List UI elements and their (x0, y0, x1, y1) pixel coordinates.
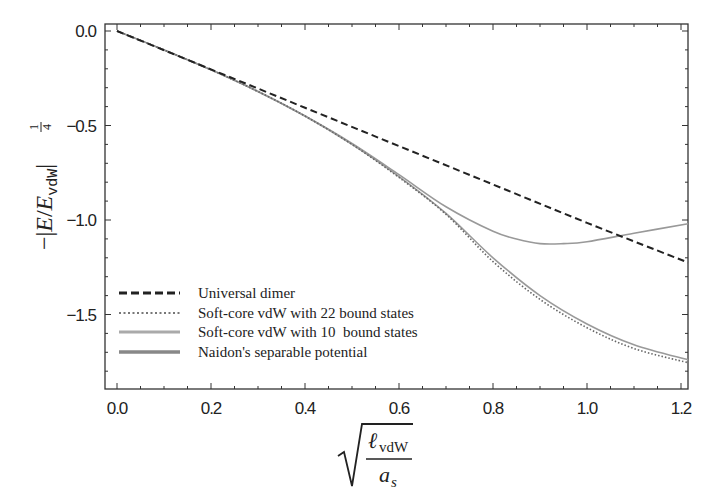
svg-text:−|E/EvdW|: −|E/EvdW| (31, 164, 62, 250)
legend-label-22-bound-states: Soft-core vdW with 22 bound states (198, 305, 414, 321)
x-tick-label: 0.6 (389, 399, 410, 418)
y-label-Evdw: E (31, 195, 57, 211)
y-tick-label: −0.5 (66, 117, 96, 136)
y-label-sub: vdW (45, 169, 62, 196)
x-tick-label: 0.2 (201, 399, 222, 418)
x-tick-label: 1.0 (577, 399, 598, 418)
legend-label-naidon-separable: Naidon's separable potential (198, 344, 367, 360)
y-tick-labels: 0.0−0.5−1.0−1.5 (66, 22, 96, 325)
legend-label-universal-dimer: Universal dimer (198, 285, 295, 301)
series-soft-core-vdw-with-10-bound-states (117, 31, 688, 244)
legend-label-10-bound-states: Soft-core vdW with 10 bound states (198, 324, 418, 340)
x-tick-labels: 0.00.20.40.60.81.01.2 (107, 399, 692, 418)
y-axis-label: −|E/EvdW| 1 4 (27, 122, 62, 250)
x-label-denominator: a (379, 462, 390, 487)
legend: Universal dimer Soft-core vdW with 22 bo… (119, 285, 418, 360)
y-label-exp-den: 4 (40, 124, 54, 130)
x-axis-label: ℓ vdW a s (338, 424, 413, 490)
x-label-denominator-sub: s (391, 474, 397, 490)
y-label-E: E (31, 217, 57, 233)
chart-figure: 0.00.20.40.60.81.01.2 0.0−0.5−1.0−1.5 Un… (0, 0, 714, 497)
y-tick-label: −1.0 (66, 211, 96, 230)
x-label-numerator: ℓ (368, 428, 378, 453)
x-tick-label: 0.0 (107, 399, 128, 418)
y-tick-label: −1.5 (66, 306, 96, 325)
x-tick-label: 0.4 (295, 399, 316, 418)
y-label-exp-num: 1 (27, 124, 41, 130)
y-label-minus: − (31, 237, 57, 251)
x-label-numerator-sub: vdW (379, 439, 409, 455)
y-label-bar-right: | (31, 164, 57, 169)
x-tick-label: 0.8 (483, 399, 504, 418)
x-tick-label: 1.2 (671, 399, 692, 418)
series-universal-dimer (117, 31, 688, 263)
y-tick-label: 0.0 (75, 22, 96, 41)
